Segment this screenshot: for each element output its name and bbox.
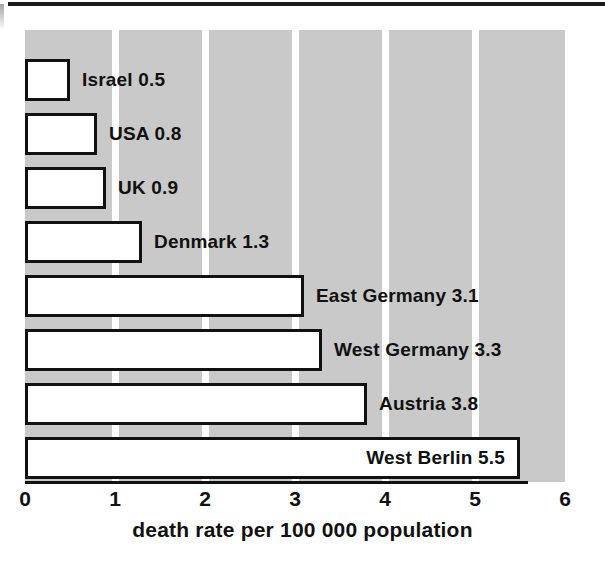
- x-tick-label: 4: [379, 487, 391, 511]
- bar-data-label: Denmark 1.3: [142, 231, 269, 253]
- bar-data-label: UK 0.9: [106, 177, 178, 199]
- x-tick-label: 1: [109, 487, 121, 511]
- bar-row[interactable]: USA 0.8: [25, 113, 565, 155]
- plot-area: Israel 0.5USA 0.8UK 0.9Denmark 1.3East G…: [25, 30, 565, 482]
- x-axis-line: [25, 481, 528, 484]
- bar[interactable]: [25, 167, 106, 209]
- bar[interactable]: [25, 383, 367, 425]
- bar-data-label: USA 0.8: [97, 123, 182, 145]
- bar[interactable]: [25, 329, 322, 371]
- bar-chart-figure: Israel 0.5USA 0.8UK 0.9Denmark 1.3East G…: [0, 0, 605, 561]
- bar-data-label: Israel 0.5: [70, 69, 165, 91]
- bar[interactable]: [25, 275, 304, 317]
- bar[interactable]: West Berlin 5.5: [25, 437, 520, 479]
- bar[interactable]: [25, 221, 142, 263]
- bar-row[interactable]: Denmark 1.3: [25, 221, 565, 263]
- bar-data-label: Austria 3.8: [367, 393, 478, 415]
- bar-row[interactable]: Austria 3.8: [25, 383, 565, 425]
- x-tick-label: 3: [289, 487, 301, 511]
- x-axis-caption: death rate per 100 000 population: [0, 518, 605, 542]
- bar[interactable]: [25, 113, 97, 155]
- bar-row[interactable]: West Germany 3.3: [25, 329, 565, 371]
- bar-data-label: West Germany 3.3: [322, 339, 502, 361]
- x-tick-label: 2: [199, 487, 211, 511]
- bar-row[interactable]: East Germany 3.1: [25, 275, 565, 317]
- bar-row[interactable]: West Berlin 5.5: [25, 437, 565, 479]
- bar-data-label: East Germany 3.1: [304, 285, 479, 307]
- x-tick-label: 5: [469, 487, 481, 511]
- bar-data-label: West Berlin 5.5: [366, 447, 517, 469]
- x-tick-label: 0: [19, 487, 31, 511]
- scan-top-rule: [8, 2, 605, 6]
- bar-row[interactable]: UK 0.9: [25, 167, 565, 209]
- scan-left-edge: [0, 4, 4, 30]
- x-tick-label: 6: [559, 487, 571, 511]
- bar-row[interactable]: Israel 0.5: [25, 59, 565, 101]
- bar[interactable]: [25, 59, 70, 101]
